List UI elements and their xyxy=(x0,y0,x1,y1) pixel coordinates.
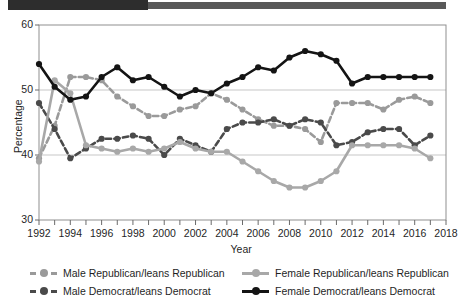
y-axis-tick-label: 50 xyxy=(3,83,33,95)
x-axis-tick-label: 1996 xyxy=(85,227,119,239)
x-axis-tick-label: 2010 xyxy=(304,227,338,239)
x-axis-tick-label: 2016 xyxy=(398,227,432,239)
x-axis-tick-label: 2006 xyxy=(241,227,275,239)
legend-swatch-icon xyxy=(242,267,269,279)
x-axis-tick-label: 2008 xyxy=(272,227,306,239)
legend-swatch-icon xyxy=(30,267,57,279)
x-axis-title: Year xyxy=(231,243,252,255)
x-axis-tick-label: 2018 xyxy=(429,227,462,239)
x-axis-tick-label: 2014 xyxy=(366,227,400,239)
legend-swatch-icon xyxy=(30,285,57,297)
y-axis-title: Percentage xyxy=(12,99,24,153)
banner-dark-band xyxy=(8,0,148,10)
x-axis-tick-label: 1992 xyxy=(22,227,56,239)
x-axis-tick-label: 2004 xyxy=(210,227,244,239)
line-chart: 3040506019921994199619982000200220042006… xyxy=(0,11,454,256)
x-axis-tick-label: 2012 xyxy=(335,227,369,239)
legend-item-label: Female Democrat/leans Democrat xyxy=(275,285,435,297)
legend-item-male-republican: Male Republican/leans Republican xyxy=(30,265,225,281)
x-axis-tick-label: 2002 xyxy=(179,227,213,239)
chart-canvas xyxy=(0,11,454,256)
banner-gray-band xyxy=(148,2,446,9)
legend-item-label: Male Republican/leans Republican xyxy=(63,267,225,279)
legend-swatch-icon xyxy=(242,285,269,297)
legend-item-label: Female Republican/leans Republican xyxy=(275,267,449,279)
chart-legend: Male Republican/leans Republican Male De… xyxy=(0,262,454,301)
x-axis-tick-label: 1998 xyxy=(116,227,150,239)
legend-item-female-republican: Female Republican/leans Republican xyxy=(242,265,449,281)
legend-item-label: Male Democrat/leans Democrat xyxy=(63,285,211,297)
x-axis-tick-label: 1994 xyxy=(53,227,87,239)
legend-item-female-democrat: Female Democrat/leans Democrat xyxy=(242,283,435,299)
y-axis-tick-label: 30 xyxy=(3,213,33,225)
x-axis-tick-label: 2000 xyxy=(147,227,181,239)
y-axis-tick-label: 60 xyxy=(3,18,33,30)
legend-item-male-democrat: Male Democrat/leans Democrat xyxy=(30,283,211,299)
top-banner xyxy=(0,0,454,11)
